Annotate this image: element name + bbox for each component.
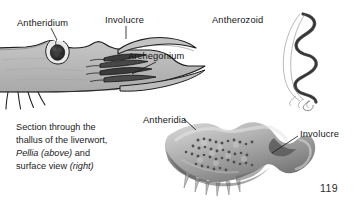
figure-liverwort-pellia: Antheridium Involucre Archegonium Anther… <box>0 0 356 206</box>
label-antherozoid: Antherozoid <box>212 14 263 26</box>
label-archegonium: Archegonium <box>128 50 184 62</box>
leader-antheridium <box>51 28 57 40</box>
caption-line-1: Section through the <box>16 122 96 132</box>
leader-involucre-lower <box>272 136 298 153</box>
caption-line-4: surface view <box>16 161 70 171</box>
leader-archegonium <box>132 62 156 74</box>
caption-line-3-rest: and <box>72 148 90 158</box>
page-number: 119 <box>320 182 338 194</box>
label-antheridia: Antheridia <box>143 114 186 126</box>
figure-caption: Section through the thallus of the liver… <box>16 121 134 173</box>
caption-species-name: Pellia (above) <box>16 148 72 158</box>
label-involucre-lower: Involucre <box>300 128 339 140</box>
caption-line-2: thallus of the liverwort, <box>16 135 107 145</box>
label-antheridium: Antheridium <box>17 17 68 29</box>
leader-lines-layer <box>0 0 356 206</box>
label-involucre-top: Involucre <box>105 14 144 26</box>
caption-line-4-italic: (right) <box>70 161 94 171</box>
